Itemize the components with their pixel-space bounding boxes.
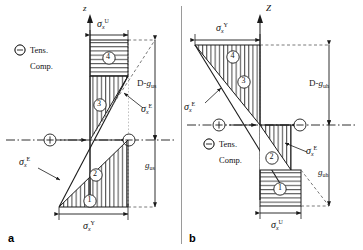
dim-label-sigma-x-Y-b: σxY xyxy=(216,22,228,34)
dim-label-sigma-x-Y-a: σxY xyxy=(83,220,95,232)
legend-b: Tens. Comp. xyxy=(203,138,242,170)
panel-b-drawing xyxy=(181,0,363,250)
callout-leader-upper-b xyxy=(205,88,221,103)
figure-canvas: z σxU σxE σxE σxY D-gus gus 4 3 2 1 xyxy=(0,0,363,250)
dim-label-D-gus-a: D-gus xyxy=(137,78,156,89)
dim-label-sigma-x-U-a: σxU xyxy=(97,18,109,30)
z-axis-arrow-a xyxy=(87,14,93,23)
region-3-number-label-a: 3 xyxy=(97,100,101,108)
dim-label-sigma-x-U-b: σxU xyxy=(271,219,283,231)
region-2-number-label-a: 2 xyxy=(93,170,97,178)
legend-label-comp-a: Comp. xyxy=(30,61,53,71)
z-axis-arrow-b xyxy=(257,14,263,23)
panel-b: Z σxY σxE σxE σxU D-guh guh 4 3 2 1 xyxy=(181,0,363,250)
legend-label-tens-a: Tens. xyxy=(30,45,48,55)
legend-row-comp-b: Comp. xyxy=(203,154,242,166)
region-1-number-label-a: 1 xyxy=(88,196,92,204)
z-axis-label-a: z xyxy=(83,4,87,13)
region-4-number-label-b: 4 xyxy=(231,52,235,60)
panel-a: z σxU σxE σxE σxY D-gus gus 4 3 2 1 xyxy=(0,0,182,250)
panel-a-drawing xyxy=(0,0,182,250)
callout-label-sigma-x-E-upper-b: σxE xyxy=(184,101,195,113)
region-3-number-label-b: 3 xyxy=(242,77,246,85)
callout-label-sigma-x-E-lower-a: σxE xyxy=(19,156,30,168)
z-axis-label-b: Z xyxy=(266,4,271,13)
callout-label-sigma-x-E-lower-b: σxE xyxy=(306,145,317,157)
legend-label-comp-b: Comp. xyxy=(219,155,242,165)
region-2-number-label-b: 2 xyxy=(270,153,274,161)
dim-label-D-guh-b: D-guh xyxy=(309,78,329,89)
region-4-number-label-a: 4 xyxy=(106,53,110,61)
minus-circle-icon xyxy=(14,60,26,72)
callout-leader-lower-a xyxy=(38,168,60,180)
panel-id-a: a xyxy=(8,232,14,244)
legend-row-comp-a: Comp. xyxy=(14,60,53,72)
panel-id-b: b xyxy=(189,232,196,244)
minus-circle-icon xyxy=(203,154,215,166)
dim-label-guh-b: guh xyxy=(318,167,329,178)
dim-label-gus-a: gus xyxy=(145,160,155,171)
legend-a: Tens. Comp. xyxy=(14,44,53,76)
region-1-number-label-b: 1 xyxy=(278,184,282,192)
callout-label-sigma-x-E-upper-a: σxE xyxy=(141,103,152,115)
legend-label-tens-b: Tens. xyxy=(219,139,237,149)
